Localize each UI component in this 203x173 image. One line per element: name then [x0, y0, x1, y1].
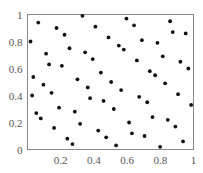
data-point: [153, 73, 157, 77]
data-point: [68, 46, 72, 50]
data-point: [171, 30, 175, 34]
data-point: [189, 103, 193, 107]
data-point: [42, 83, 46, 87]
y-tick-label: 0.2: [9, 117, 23, 129]
data-point: [88, 96, 92, 100]
x-tick-label: 1: [191, 154, 197, 166]
y-axis-ticks: 00.20.40.60.81: [9, 9, 23, 156]
data-point: [47, 63, 51, 67]
data-point: [81, 14, 85, 18]
data-point: [109, 80, 113, 84]
x-tick-label: 0.4: [87, 154, 101, 166]
data-point: [145, 100, 149, 104]
data-point: [52, 126, 56, 130]
data-point: [122, 48, 126, 52]
y-tick-label: 0.8: [9, 36, 23, 48]
y-tick-label: 1: [17, 9, 23, 21]
data-point: [148, 69, 152, 73]
data-point: [117, 44, 121, 48]
data-point: [31, 75, 35, 79]
data-point: [176, 92, 180, 96]
y-tick-label: 0: [17, 144, 23, 156]
data-point: [119, 88, 123, 92]
data-point: [156, 41, 160, 45]
data-point: [57, 106, 61, 110]
data-point: [71, 142, 75, 146]
data-point: [168, 19, 172, 23]
data-point: [130, 131, 134, 135]
data-point: [86, 86, 90, 90]
data-point: [143, 134, 147, 138]
data-point: [73, 110, 77, 114]
data-point: [30, 94, 34, 98]
data-point: [127, 121, 131, 125]
data-point: [39, 117, 43, 121]
data-point: [34, 111, 38, 115]
data-point: [140, 38, 144, 42]
data-point: [91, 57, 95, 61]
data-point: [99, 71, 103, 75]
data-point: [29, 40, 33, 44]
data-point: [65, 137, 69, 141]
data-point: [161, 54, 165, 58]
data-point: [44, 52, 48, 56]
data-point: [114, 144, 118, 148]
data-point: [186, 67, 190, 71]
data-point: [174, 125, 178, 129]
data-point: [63, 33, 67, 37]
data-point: [78, 122, 82, 126]
x-tick-label: 0.2: [54, 154, 68, 166]
data-point: [55, 26, 59, 30]
scatter-plot: 00.20.40.60.81 0.20.40.60.81: [0, 0, 203, 173]
data-point: [50, 91, 54, 95]
data-point: [135, 59, 139, 63]
x-tick-label: 0.8: [153, 154, 167, 166]
y-tick-label: 0.6: [9, 63, 23, 75]
data-point: [104, 135, 108, 139]
data-point: [102, 99, 106, 103]
data-point: [36, 21, 40, 25]
data-point: [166, 118, 170, 122]
data-point: [132, 23, 136, 27]
data-point: [184, 32, 188, 36]
data-point: [96, 129, 100, 133]
data-point: [137, 95, 141, 99]
data-point: [107, 36, 111, 40]
x-tick-label: 0.6: [120, 154, 134, 166]
data-points: [29, 14, 193, 149]
data-point: [181, 140, 185, 144]
data-point: [112, 107, 116, 111]
data-point: [83, 50, 87, 54]
data-point: [125, 17, 129, 21]
data-point: [60, 64, 64, 68]
x-axis-ticks: 0.20.40.60.81: [54, 154, 196, 166]
data-point: [178, 60, 182, 64]
data-point: [151, 115, 155, 119]
data-point: [76, 77, 80, 81]
y-tick-label: 0.4: [9, 90, 23, 102]
data-point: [93, 25, 97, 29]
data-point: [163, 81, 167, 85]
data-point: [158, 145, 162, 149]
